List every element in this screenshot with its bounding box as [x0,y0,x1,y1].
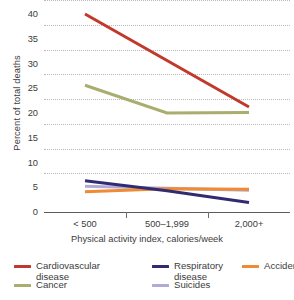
legend-label-cancer: Cancer [36,280,67,291]
legend-item-suicides[interactable]: Suicides [152,280,210,291]
legend-label-suicides: Suicides [174,280,210,291]
series-lines [0,0,294,252]
legend-swatch-icon-cancer [14,284,31,287]
legend-item-accidents[interactable]: Accidents [242,261,294,272]
legend-swatch-icon-accidents [242,265,259,268]
legend-swatch-icon-suicides [152,284,169,287]
series-line-cancer [85,85,249,113]
legend-item-cancer[interactable]: Cancer [14,280,67,291]
line-chart-figure: Percent of total deaths 0510152025303540… [0,0,294,300]
chart-legend: Cardiovascular diseaseRespiratory diseas… [14,261,294,299]
legend-label-accidents: Accidents [264,261,294,272]
legend-swatch-icon-respiratory-disease [152,265,169,268]
legend-row: Cardiovascular diseaseRespiratory diseas… [14,261,294,280]
plot-area: Percent of total deaths 0510152025303540… [0,0,294,252]
legend-row: CancerSuicides [14,280,294,299]
legend-swatch-icon-cardiovascular-disease [14,265,31,268]
